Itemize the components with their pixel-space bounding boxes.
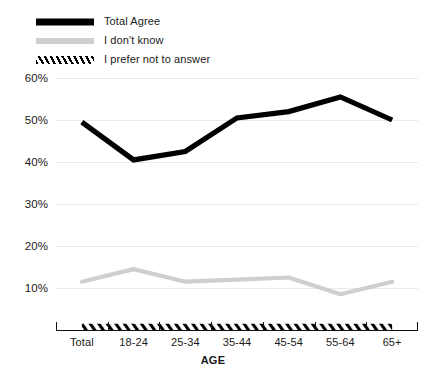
x-axis-title: AGE bbox=[0, 354, 426, 366]
solid-black-line-swatch bbox=[36, 12, 94, 31]
legend-item-label: Total Agree bbox=[104, 12, 160, 31]
legend-item-label: I don't know bbox=[104, 31, 164, 50]
y-axis: 10%20%30%40%50%60% bbox=[0, 70, 56, 338]
solid-gray-line-swatch bbox=[36, 31, 94, 50]
x-axis-tick-label: 55-64 bbox=[326, 336, 355, 348]
y-axis-tick-label: 30% bbox=[25, 198, 48, 210]
hatched-band-swatch bbox=[36, 50, 94, 69]
y-axis-tick-label: 10% bbox=[25, 282, 48, 294]
y-axis-tick-label: 40% bbox=[25, 156, 48, 168]
legend-item-total-agree: Total Agree bbox=[36, 12, 356, 31]
chart-container: Total Agree I don't know I prefer not to… bbox=[0, 0, 426, 372]
chart-legend: Total Agree I don't know I prefer not to… bbox=[36, 12, 356, 69]
y-axis-tick-label: 50% bbox=[25, 114, 48, 126]
legend-item-label: I prefer not to answer bbox=[104, 50, 210, 69]
x-axis-tick bbox=[263, 322, 264, 331]
x-axis-tick-label: 18-24 bbox=[119, 336, 148, 348]
x-axis-tick-label: 35-44 bbox=[223, 336, 252, 348]
x-axis-tick bbox=[315, 322, 316, 331]
series-layer bbox=[56, 70, 418, 338]
x-axis-tick-label: 65+ bbox=[383, 336, 402, 348]
x-axis-tick-label: 45-54 bbox=[274, 336, 303, 348]
x-axis-ticks bbox=[56, 322, 418, 331]
y-axis-tick-label: 20% bbox=[25, 240, 48, 252]
series-total-agree bbox=[82, 97, 392, 160]
legend-item-i-dont-know: I don't know bbox=[36, 31, 356, 50]
x-axis-end-tick bbox=[417, 322, 418, 331]
x-axis-labels: Total18-2425-3435-4445-5455-6465+ bbox=[0, 336, 426, 352]
y-axis-tick-label: 60% bbox=[25, 72, 48, 84]
x-axis-tick bbox=[211, 322, 212, 331]
x-axis-end-tick bbox=[56, 322, 57, 331]
x-axis-tick bbox=[159, 322, 160, 331]
series-svg bbox=[56, 70, 418, 338]
x-axis-tick bbox=[366, 322, 367, 331]
series-i-dont-know bbox=[82, 269, 392, 294]
x-axis-tick bbox=[108, 322, 109, 331]
legend-item-i-prefer-not-to-answer: I prefer not to answer bbox=[36, 50, 356, 69]
x-axis-tick-label: 25-34 bbox=[171, 336, 200, 348]
x-axis-tick-label: Total bbox=[70, 336, 94, 348]
plot-area: 10%20%30%40%50%60% bbox=[0, 70, 426, 338]
